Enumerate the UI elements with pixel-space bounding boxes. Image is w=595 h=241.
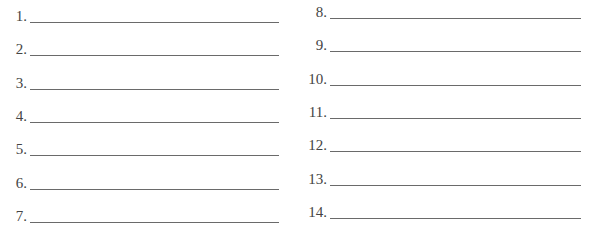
answer-blank-line[interactable] [330,51,581,52]
item-number: 13. [0,172,327,187]
item-number: 14. [0,205,327,220]
answer-blank-line[interactable] [30,222,279,223]
answer-blank-line[interactable] [30,189,279,190]
answer-blank-line[interactable] [330,185,581,186]
item-number: 12. [0,138,327,153]
answer-blank-line[interactable] [30,122,279,123]
item-number: 11. [0,105,327,120]
item-number: 10. [0,72,327,87]
answer-blank-line[interactable] [330,118,581,119]
answer-blank-line[interactable] [330,18,581,19]
answer-blank-line[interactable] [30,155,279,156]
item-number: 8. [0,5,327,20]
answer-blank-line[interactable] [330,151,581,152]
answer-blank-line[interactable] [30,22,279,23]
answer-blank-line[interactable] [30,89,279,90]
answer-blank-line[interactable] [30,55,279,56]
answer-blank-line[interactable] [330,85,581,86]
answer-blank-line[interactable] [330,218,581,219]
item-number: 9. [0,38,327,53]
